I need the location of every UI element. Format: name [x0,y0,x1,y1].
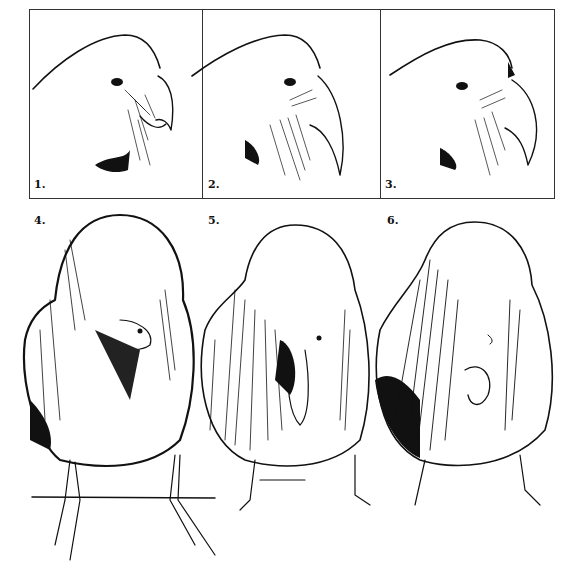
parrot-body-4 [24,215,215,560]
parrot-head-1 [33,35,173,172]
parrot-head-3 [390,40,537,175]
parrot-body-5 [201,225,370,510]
parrot-head-2 [192,35,343,180]
parrot-illustration [0,0,567,572]
parrot-body-6 [375,222,552,505]
